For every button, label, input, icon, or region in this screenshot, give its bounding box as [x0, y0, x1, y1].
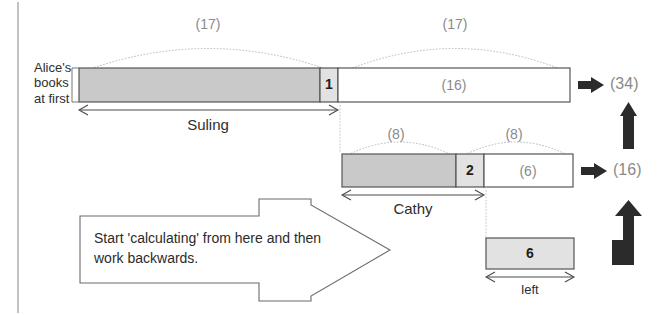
- cathy-shaded-segment-rect: [342, 154, 456, 187]
- callout-text-line1: Start 'calculating' from here and then: [94, 228, 309, 248]
- alice-left-label: Alice's books at first: [34, 60, 78, 106]
- result-arrow-34: [578, 77, 604, 93]
- unit-cell-2-label: 2: [460, 162, 480, 179]
- alice-left-label-line3: at first: [34, 91, 78, 106]
- unit-cell-1-label: 1: [319, 76, 339, 93]
- remainder-16-label: (16): [429, 77, 479, 94]
- callout-text-line2: work backwards.: [94, 248, 309, 268]
- arc-8-left-label: (8): [374, 126, 418, 143]
- total-34-label: (34): [610, 75, 638, 94]
- cathy-brace-label: Cathy: [363, 200, 463, 218]
- left-bar-label: 6: [505, 245, 555, 262]
- arc-8-right-label: (8): [492, 126, 536, 143]
- flow-arrow-up-bent-bottom: [612, 200, 642, 265]
- arc-17-right-label: (17): [430, 16, 480, 33]
- alice-left-label-line1: Alice's: [34, 60, 78, 75]
- suling-brace-label: Suling: [158, 116, 258, 134]
- left-brace-label: left: [505, 282, 555, 297]
- total-16-label: (16): [613, 161, 641, 180]
- flow-arrow-up-top: [620, 102, 637, 149]
- result-arrow-16: [581, 163, 607, 179]
- alice-left-label-line2: books: [34, 75, 78, 90]
- arc-17-left-label: (17): [183, 16, 233, 33]
- suling-shaded-segment-rect: [79, 68, 320, 102]
- callout-text: Start 'calculating' from here and then w…: [94, 228, 309, 269]
- remainder-6-label: (6): [503, 163, 553, 180]
- diagram-canvas: Alice's books at first (17) (17) 1 (16) …: [0, 0, 665, 315]
